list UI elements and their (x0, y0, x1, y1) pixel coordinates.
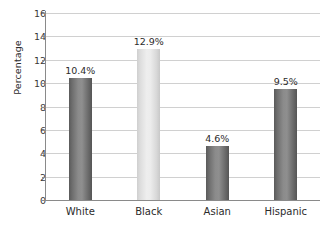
y-axis-tick-marks (0, 0, 50, 225)
x-tick-label: Hispanic (252, 203, 321, 221)
bar-group: 10.4% (69, 13, 92, 200)
bar[interactable] (137, 49, 160, 200)
bar-group: 12.9% (137, 13, 160, 200)
x-axis-category-labels: WhiteBlackAsianHispanic (46, 203, 320, 223)
bar-group: 4.6% (206, 13, 229, 200)
plot-area: 10.4%12.9%4.6%9.5% (46, 13, 320, 200)
bar-value-label: 12.9% (115, 36, 182, 47)
bar-value-label: 10.4% (47, 65, 114, 76)
gridline (46, 200, 320, 201)
bar-value-label: 9.5% (252, 76, 319, 87)
bar-value-label: 4.6% (184, 133, 251, 144)
bar[interactable] (69, 78, 92, 200)
x-tick-label: White (46, 203, 115, 221)
bar[interactable] (206, 146, 229, 200)
bar[interactable] (274, 89, 297, 200)
bar-group: 9.5% (274, 13, 297, 200)
x-tick-label: Asian (183, 203, 252, 221)
bar-chart: Percentage 0246810121416 10.4%12.9%4.6%9… (0, 0, 327, 225)
x-tick-label: Black (115, 203, 184, 221)
